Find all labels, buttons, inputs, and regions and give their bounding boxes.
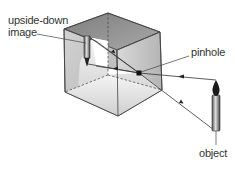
label-line: image [8,26,68,38]
object-label: object [199,147,227,159]
upside-down-image-label: upside-down image [8,14,68,38]
object-candle [212,80,220,131]
box [64,13,162,116]
arrow-icon [179,100,184,104]
arrow-icon [178,75,184,79]
pinhole-label: pinhole [191,46,225,58]
pinhole-marker [137,71,142,76]
label-line: upside-down [8,14,68,26]
ray-bottom [139,73,214,130]
flame-icon [212,80,219,96]
